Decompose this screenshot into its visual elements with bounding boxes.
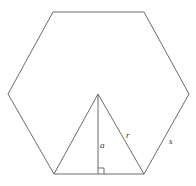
- apothem-label: a: [100, 140, 105, 150]
- radius-right-line: [98, 94, 144, 174]
- radius-left-line: [54, 94, 98, 174]
- side-label: s: [169, 136, 173, 146]
- radius-label: r: [126, 130, 130, 140]
- right-angle-marker: [98, 168, 104, 174]
- hexagon-diagram: a r s: [0, 0, 196, 186]
